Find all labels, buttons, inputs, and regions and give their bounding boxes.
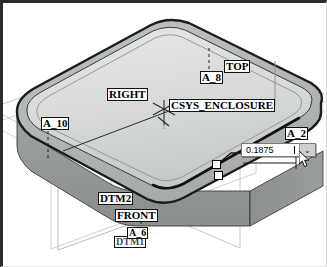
dimension-drag-handle-2[interactable] — [214, 171, 223, 180]
graphics-area[interactable]: TOP A_8 RIGHT CSYS_ENCLOSURE Z A_10 A_2 … — [3, 3, 325, 266]
dimension-value-text[interactable]: 0.1875 — [242, 144, 293, 156]
mouse-cursor — [299, 151, 312, 169]
dimension-drag-handle-1[interactable] — [212, 160, 221, 169]
dimension-leader-layer — [3, 3, 325, 266]
cad-viewport[interactable]: TOP A_8 RIGHT CSYS_ENCLOSURE Z A_10 A_2 … — [0, 0, 327, 267]
datum-axis-a6-label[interactable]: A_6 — [127, 227, 148, 239]
text-caret — [294, 146, 295, 154]
